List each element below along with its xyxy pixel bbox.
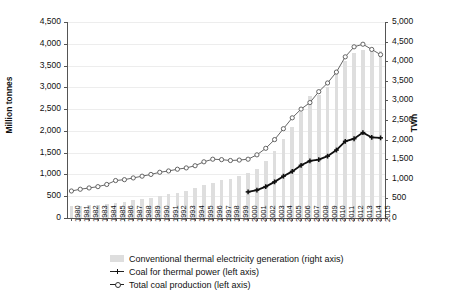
data-point-marker-circle <box>131 176 135 180</box>
plot-area <box>67 22 385 218</box>
x-axis-tick-label: 2015 <box>384 205 392 222</box>
data-point-marker-circle <box>378 53 382 57</box>
data-point-marker-circle <box>361 42 365 46</box>
y-axis-left-tick-label: 2,000 <box>21 126 61 135</box>
y-axis-right-tick-label: 5,000 <box>392 17 432 26</box>
data-point-marker-circle <box>211 157 215 161</box>
x-axis-tick-mark <box>310 218 311 221</box>
x-axis-tick-mark <box>107 218 108 221</box>
x-axis-tick-mark <box>363 218 364 221</box>
data-point-marker-cross <box>255 188 260 193</box>
data-point-marker-circle <box>264 146 268 150</box>
x-axis-tick-mark <box>222 218 223 221</box>
line-coal-for-thermal-power <box>248 133 380 192</box>
data-point-marker-circle <box>352 45 356 49</box>
data-point-marker-circle <box>343 55 347 59</box>
legend-item-total-coal-production: Total coal production (left axis) <box>0 278 452 291</box>
y-axis-left-tick-label: 1,000 <box>21 169 61 178</box>
x-axis-tick-mark <box>257 218 258 221</box>
y-axis-right-tick-label: 0 <box>392 213 432 222</box>
legend-label-conventional-thermal: Conventional thermal electricity generat… <box>129 254 344 264</box>
y-axis-right-tick-label: 4,500 <box>392 37 432 46</box>
data-point-marker-cross <box>316 157 321 162</box>
data-point-marker-circle <box>370 47 374 51</box>
data-point-marker-circle <box>308 100 312 104</box>
data-point-marker-circle <box>166 169 170 173</box>
legend-cross-line-swatch-icon <box>110 267 124 276</box>
data-point-marker-circle <box>96 185 100 189</box>
x-axis-tick-mark <box>319 218 320 221</box>
legend-circle-line-swatch-icon <box>110 280 124 289</box>
y-axis-left-tick-label: 3,500 <box>21 61 61 70</box>
y-axis-right-tick-label: 3,000 <box>392 95 432 104</box>
data-point-marker-circle <box>317 90 321 94</box>
legend-item-conventional-thermal: Conventional thermal electricity generat… <box>0 252 452 265</box>
data-point-marker-circle <box>69 189 73 193</box>
data-point-marker-circle <box>87 186 91 190</box>
data-point-marker-circle <box>175 167 179 171</box>
data-point-marker-circle <box>290 116 294 120</box>
coal-production-chart: Million tonnes TWh 05001,0001,5002,0002,… <box>0 0 452 303</box>
x-axis-tick-mark <box>301 218 302 221</box>
data-point-marker-cross <box>246 189 251 194</box>
y-axis-right-tick-label: 2,500 <box>392 115 432 124</box>
x-axis-tick-mark <box>248 218 249 221</box>
y-axis-left-tick-label: 2,500 <box>21 104 61 113</box>
y-axis-left-tick-label: 4,000 <box>21 39 61 48</box>
y-axis-left-title: Million tonnes <box>4 65 14 145</box>
y-axis-right-spine <box>385 22 386 218</box>
y-axis-right-tick-label: 1,500 <box>392 154 432 163</box>
legend-label-coal-for-thermal-power: Coal for thermal power (left axis) <box>129 267 259 277</box>
y-axis-left-tick-label: 3,000 <box>21 82 61 91</box>
legend-item-coal-for-thermal-power: Coal for thermal power (left axis) <box>0 265 452 278</box>
data-point-marker-circle <box>149 172 153 176</box>
data-point-marker-circle <box>246 157 250 161</box>
data-point-marker-circle <box>255 153 259 157</box>
data-point-marker-circle <box>193 164 197 168</box>
line-series-layer <box>67 22 385 218</box>
y-axis-right-tick-label: 2,000 <box>392 135 432 144</box>
data-point-marker-circle <box>219 158 223 162</box>
x-axis-tick-mark <box>89 218 90 221</box>
x-axis-tick-mark <box>204 218 205 221</box>
y-axis-left-tick-label: 1,500 <box>21 148 61 157</box>
x-axis-tick-mark <box>195 218 196 221</box>
line-total-coal-production <box>71 44 380 191</box>
x-axis-tick-mark <box>151 218 152 221</box>
x-axis-tick-mark <box>213 218 214 221</box>
x-axis-tick-mark <box>381 218 382 221</box>
y-axis-left-tick-label: 4,500 <box>21 17 61 26</box>
data-point-marker-circle <box>299 107 303 111</box>
y-axis-left-tick-label: 500 <box>21 191 61 200</box>
data-point-marker-circle <box>105 182 109 186</box>
data-point-marker-circle <box>272 138 276 142</box>
data-point-marker-circle <box>334 70 338 74</box>
y-axis-right-tick-label: 4,000 <box>392 56 432 65</box>
legend-label-total-coal-production: Total coal production (left axis) <box>129 280 251 290</box>
data-point-marker-circle <box>122 178 126 182</box>
data-point-marker-circle <box>113 178 117 182</box>
x-axis-tick-mark <box>328 218 329 221</box>
data-point-marker-circle <box>325 81 329 85</box>
data-point-marker-circle <box>281 127 285 131</box>
y-axis-right-tick-label: 500 <box>392 193 432 202</box>
x-axis-tick-mark <box>169 218 170 221</box>
legend-bar-swatch-icon <box>110 255 124 262</box>
data-point-marker-cross <box>378 135 383 140</box>
data-point-marker-circle <box>140 174 144 178</box>
data-point-marker-circle <box>237 158 241 162</box>
x-axis-tick-mark <box>160 218 161 221</box>
x-axis-tick-mark <box>116 218 117 221</box>
x-axis-tick-mark <box>354 218 355 221</box>
x-axis-tick-mark <box>98 218 99 221</box>
y-axis-right-tick-label: 1,000 <box>392 174 432 183</box>
data-point-marker-circle <box>228 158 232 162</box>
y-axis-right-tick-label: 3,500 <box>392 76 432 85</box>
x-axis-tick-mark <box>275 218 276 221</box>
x-axis-tick-mark <box>142 218 143 221</box>
y-axis-left-tick-label: 0 <box>21 213 61 222</box>
data-point-marker-circle <box>158 170 162 174</box>
chart-legend: Conventional thermal electricity generat… <box>0 252 452 291</box>
x-axis-tick-mark <box>266 218 267 221</box>
data-point-marker-circle <box>184 166 188 170</box>
